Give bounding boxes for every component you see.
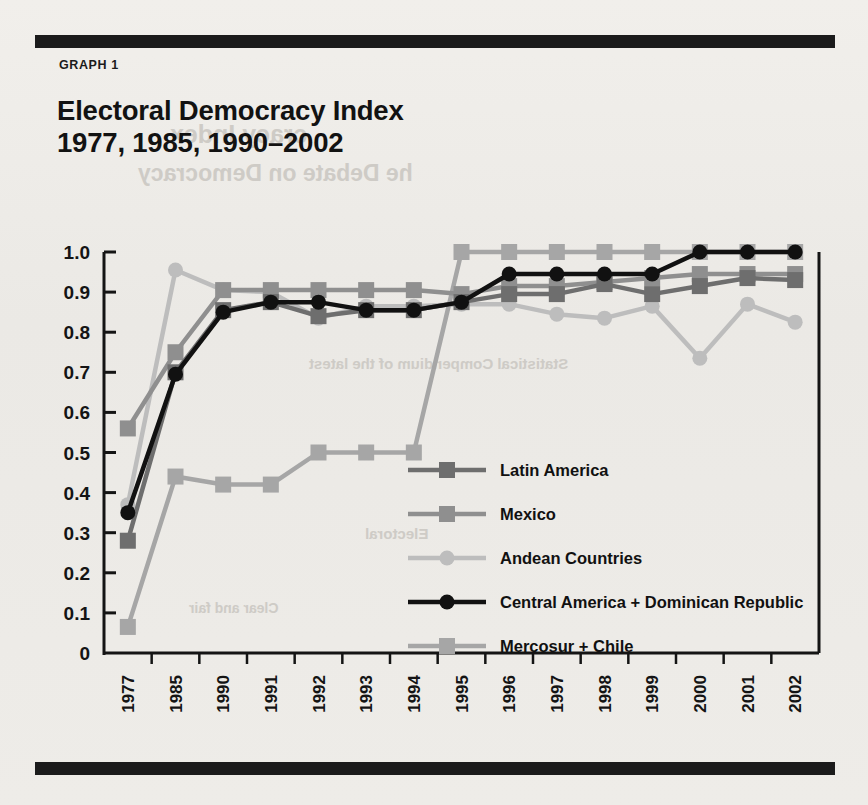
data-point xyxy=(311,295,326,310)
data-point xyxy=(168,344,184,360)
data-point xyxy=(549,267,564,282)
data-point xyxy=(549,244,565,260)
data-point xyxy=(311,308,327,324)
data-point xyxy=(597,244,613,260)
data-point xyxy=(644,244,660,260)
legend-label: Mercosur + Chile xyxy=(500,637,633,655)
legend-marker xyxy=(440,551,455,566)
x-tick-label: 1985 xyxy=(167,675,186,713)
data-point xyxy=(549,307,564,322)
data-point xyxy=(692,245,707,260)
x-tick-label: 1997 xyxy=(548,675,567,713)
data-point xyxy=(120,420,136,436)
data-point xyxy=(597,267,612,282)
legend-item-central-america-dominican-republic[interactable]: Central America + Dominican Republic xyxy=(408,593,803,611)
data-point xyxy=(168,367,183,382)
data-point xyxy=(740,245,755,260)
x-tick-label: 1991 xyxy=(262,675,281,713)
data-point xyxy=(263,477,279,493)
data-point xyxy=(215,282,231,298)
y-tick-label: 0.2 xyxy=(64,563,90,584)
legend-item-latin-america[interactable]: Latin America xyxy=(408,461,609,479)
legend-item-andean-countries[interactable]: Andean Countries xyxy=(408,549,642,567)
x-tick-label: 1977 xyxy=(119,675,138,713)
legend-marker xyxy=(439,638,455,654)
legend-item-mercosur-chile[interactable]: Mercosur + Chile xyxy=(408,637,633,655)
line-chart: 00.10.20.30.40.50.60.70.80.91.0 19771985… xyxy=(0,0,868,805)
data-point xyxy=(359,303,374,318)
data-point xyxy=(406,445,422,461)
data-point xyxy=(549,286,565,302)
data-point xyxy=(787,272,803,288)
x-tick-label: 2002 xyxy=(786,675,805,713)
legend-label: Andean Countries xyxy=(500,549,642,567)
legend-label: Latin America xyxy=(500,461,609,479)
y-tick-label: 0 xyxy=(79,643,90,664)
data-point xyxy=(501,244,517,260)
data-point xyxy=(740,297,755,312)
data-point xyxy=(502,267,517,282)
y-tick-label: 1.0 xyxy=(64,242,90,263)
data-point xyxy=(263,295,278,310)
y-tick-label: 0.7 xyxy=(64,362,90,383)
x-tick-label: 2001 xyxy=(739,675,758,713)
x-tick-label: 1998 xyxy=(596,675,615,713)
data-point xyxy=(740,270,756,286)
x-tick-label: 1993 xyxy=(357,675,376,713)
data-point xyxy=(358,282,374,298)
y-axis: 00.10.20.30.40.50.60.70.80.91.0 xyxy=(64,242,116,664)
data-point xyxy=(168,469,184,485)
data-point xyxy=(215,477,231,493)
chart-area: 00.10.20.30.40.50.60.70.80.91.0 19771985… xyxy=(0,0,868,805)
data-point xyxy=(406,282,422,298)
data-point xyxy=(216,305,231,320)
data-point xyxy=(501,286,517,302)
data-point xyxy=(644,286,660,302)
data-point xyxy=(454,244,470,260)
data-point xyxy=(692,351,707,366)
data-point xyxy=(120,619,136,635)
data-point xyxy=(788,315,803,330)
x-tick-label: 1996 xyxy=(500,675,519,713)
y-tick-label: 0.3 xyxy=(64,523,90,544)
data-point xyxy=(358,445,374,461)
x-tick-label: 1992 xyxy=(310,675,329,713)
legend-label: Mexico xyxy=(500,505,556,523)
chart-legend: Latin AmericaMexicoAndean CountriesCentr… xyxy=(408,461,803,655)
data-point xyxy=(645,267,660,282)
legend-marker xyxy=(440,595,455,610)
legend-marker xyxy=(439,506,455,522)
data-point xyxy=(168,263,183,278)
x-tick-label: 2000 xyxy=(691,675,710,713)
y-tick-label: 0.1 xyxy=(64,603,91,624)
data-point xyxy=(120,533,136,549)
data-point xyxy=(406,303,421,318)
x-tick-label: 1995 xyxy=(453,675,472,713)
data-point xyxy=(788,245,803,260)
legend-item-mexico[interactable]: Mexico xyxy=(408,505,556,523)
y-tick-label: 0.5 xyxy=(64,443,91,464)
x-tick-label: 1994 xyxy=(405,674,424,712)
y-tick-label: 0.8 xyxy=(64,322,90,343)
y-tick-label: 0.6 xyxy=(64,402,90,423)
legend-marker xyxy=(439,462,455,478)
legend-label: Central America + Dominican Republic xyxy=(500,593,803,611)
x-tick-label: 1990 xyxy=(214,675,233,713)
x-tick-label: 1999 xyxy=(643,675,662,713)
y-tick-label: 0.9 xyxy=(64,282,90,303)
data-point xyxy=(597,311,612,326)
data-point xyxy=(311,445,327,461)
y-tick-label: 0.4 xyxy=(64,483,91,504)
data-point xyxy=(120,505,135,520)
data-point xyxy=(692,278,708,294)
data-series-group xyxy=(120,244,803,635)
data-point xyxy=(454,295,469,310)
